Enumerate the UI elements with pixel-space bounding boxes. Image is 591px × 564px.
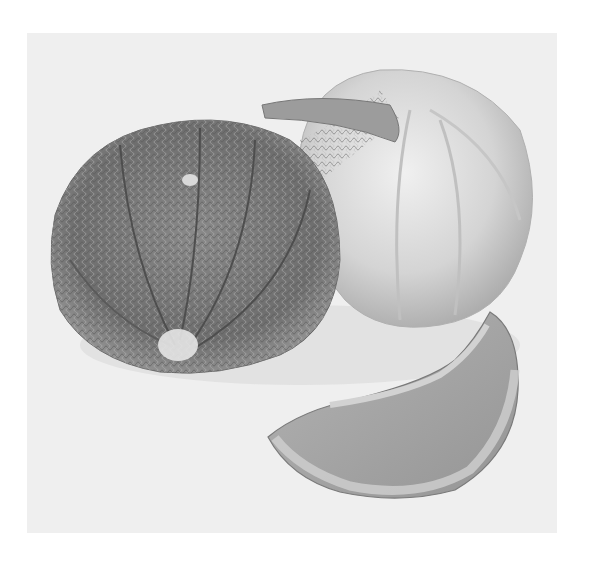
netted-melon — [51, 120, 340, 373]
blossom-end — [158, 329, 198, 361]
melon-illustration — [0, 0, 591, 564]
